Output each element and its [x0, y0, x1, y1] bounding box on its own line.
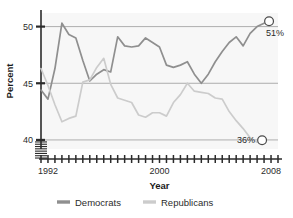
y-tick-label: 50 [23, 22, 33, 32]
x-axis-ticks [41, 155, 278, 163]
y-tick-label: 40 [23, 135, 33, 145]
x-tick-label: 1992 [38, 166, 58, 176]
x-axis-title: Year [149, 180, 169, 191]
x-tick-label: 2008 [261, 166, 281, 176]
endpoint-marker-republicans [258, 136, 267, 145]
x-tick-label: 2000 [149, 166, 169, 176]
chart-canvas: 404550 199220002008 51%36% Percent Year … [0, 0, 293, 218]
line-chart: 404550 199220002008 51%36% Percent Year … [0, 0, 293, 218]
y-tick-label: 45 [23, 79, 33, 89]
endpoint-label-republicans: 36% [237, 135, 255, 145]
endpoint-label-democrats: 51% [266, 28, 284, 38]
legend-label-democrats: Democrats [75, 197, 121, 208]
y-axis-title: Percent [4, 63, 15, 99]
endpoint-marker-democrats [265, 17, 274, 26]
legend-label-republicans: Republicans [161, 197, 214, 208]
